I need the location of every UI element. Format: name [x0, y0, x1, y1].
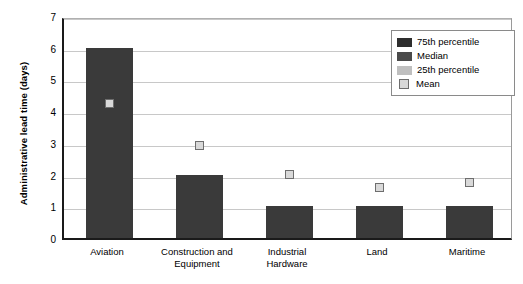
y-axis-tick-label: 1	[40, 203, 56, 213]
legend-label: 25th percentile	[417, 65, 479, 75]
x-axis-category-label: IndustrialHardware	[242, 246, 332, 269]
bar	[176, 175, 223, 238]
y-axis-tick-label: 5	[40, 76, 56, 86]
x-axis-category-label-line: Construction and	[152, 246, 242, 258]
legend-item: 75th percentile	[397, 35, 509, 49]
x-axis-category-label-line: Equipment	[152, 258, 242, 270]
gridline	[64, 19, 511, 20]
bar	[266, 206, 313, 238]
x-axis-category-label: Land	[332, 246, 422, 258]
legend-item: Mean	[397, 77, 509, 91]
mean-marker	[105, 99, 114, 108]
legend-label: Mean	[416, 79, 440, 89]
bar	[446, 206, 493, 238]
bar	[86, 48, 133, 238]
y-axis-tick-label: 4	[40, 108, 56, 118]
y-axis-tick-label: 0	[40, 235, 56, 245]
mean-marker	[285, 170, 294, 179]
mean-marker	[375, 183, 384, 192]
legend-swatch-dark	[397, 38, 412, 47]
x-axis-category-label: Aviation	[62, 246, 152, 258]
legend-label: 75th percentile	[417, 37, 479, 47]
legend-label: Median	[417, 51, 448, 61]
x-axis-category-label-line: Industrial	[242, 246, 332, 258]
y-axis-tick-label: 7	[40, 13, 56, 23]
x-axis-category-label-line: Aviation	[62, 246, 152, 258]
x-axis-category-label-line: Land	[332, 246, 422, 258]
x-axis-category-label-line: Hardware	[242, 258, 332, 270]
legend-swatch-light	[397, 66, 412, 75]
x-axis-category-label: Maritime	[422, 246, 512, 258]
chart-legend: 75th percentileMedian25th percentileMean	[391, 30, 515, 96]
x-axis-category-label-line: Maritime	[422, 246, 512, 258]
mean-marker	[195, 141, 204, 150]
legend-swatch-medium	[397, 52, 412, 61]
legend-swatch-mean	[399, 79, 409, 89]
chart-container: Administrative lead time (days) 76543210…	[0, 0, 523, 284]
y-axis-tick-label: 3	[40, 140, 56, 150]
legend-item: Median	[397, 49, 509, 63]
y-axis-tick-label: 2	[40, 172, 56, 182]
mean-marker	[465, 178, 474, 187]
bar	[356, 206, 403, 238]
x-axis-category-label: Construction andEquipment	[152, 246, 242, 269]
legend-item: 25th percentile	[397, 63, 509, 77]
y-axis-tick-label: 6	[40, 45, 56, 55]
